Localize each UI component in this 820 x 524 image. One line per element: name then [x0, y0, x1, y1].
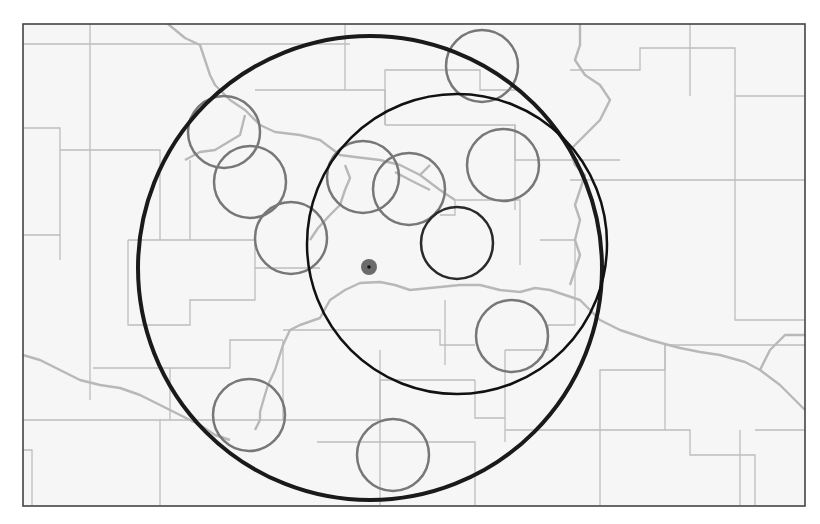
county-map	[0, 0, 820, 524]
center-marker-icon[interactable]	[361, 259, 377, 275]
center-marker-dot	[367, 265, 371, 269]
map-frame	[0, 0, 820, 524]
map-background	[23, 24, 805, 506]
